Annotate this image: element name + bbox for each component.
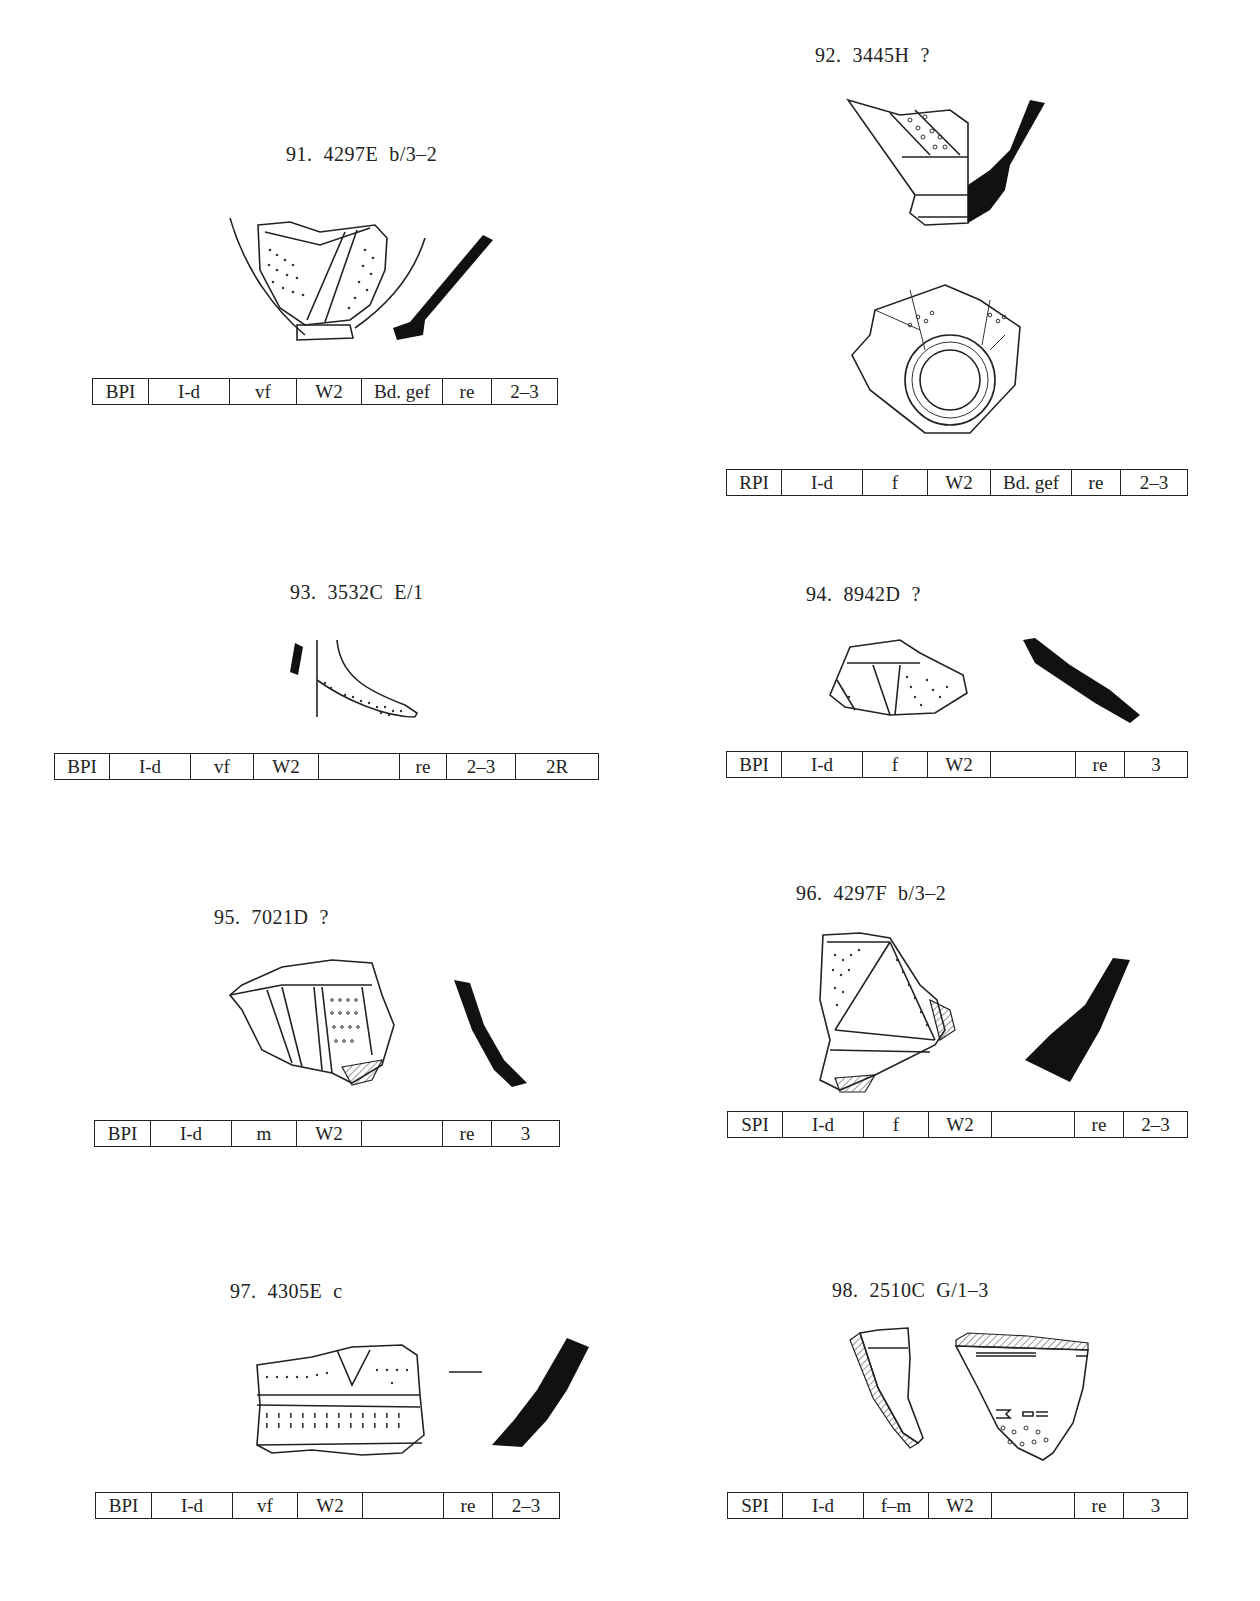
cell-part: Bd. gef — [991, 470, 1072, 496]
cell-fabric: f — [863, 470, 928, 496]
cell-fabric: vf — [233, 1493, 298, 1519]
cell-surface: re — [1072, 470, 1121, 496]
cell-fabric: f–m — [864, 1493, 929, 1519]
cell-type: I-d — [782, 470, 863, 496]
cell-wall: W2 — [929, 1112, 992, 1138]
cell-ware: SPI — [728, 1112, 783, 1138]
sherd-drawing-94 — [825, 635, 1145, 725]
cell-wall: W2 — [297, 1121, 362, 1147]
cell-wall: W2 — [929, 1493, 992, 1519]
cell-type: I-d — [149, 379, 230, 405]
cell-surface: re — [1075, 1112, 1124, 1138]
cell-range: 2–3 — [447, 754, 516, 780]
cell-fabric: vf — [191, 754, 254, 780]
caption-91: 91. 4297E b/3–2 — [286, 143, 437, 166]
cell-type: I-d — [783, 1112, 864, 1138]
sherd-drawing-97 — [252, 1335, 597, 1460]
classification-table-94: BPI I-d f W2 re 3 — [726, 751, 1188, 778]
cell-surface: re — [444, 1493, 493, 1519]
cell-range: 3 — [1125, 752, 1188, 778]
sherd-drawing-96 — [815, 930, 1135, 1095]
cell-ware: RPI — [727, 470, 782, 496]
classification-table-98: SPI I-d f–m W2 re 3 — [727, 1492, 1188, 1519]
caption-96: 96. 4297F b/3–2 — [796, 882, 946, 905]
cell-part — [992, 1112, 1075, 1138]
caption-94: 94. 8942D ? — [806, 583, 921, 606]
classification-table-92: RPI I-d f W2 Bd. gef re 2–3 — [726, 469, 1188, 496]
cell-ware: BPI — [96, 1493, 152, 1519]
cell-surface: re — [1076, 752, 1125, 778]
cell-fabric: m — [232, 1121, 297, 1147]
cell-surface: re — [400, 754, 447, 780]
caption-98: 98. 2510C G/1–3 — [832, 1279, 989, 1302]
cell-wall: W2 — [928, 470, 991, 496]
cell-type: I-d — [783, 1493, 864, 1519]
cell-wall: W2 — [254, 754, 319, 780]
cell-fabric: f — [864, 1112, 929, 1138]
cell-part — [319, 754, 400, 780]
sherd-drawing-93 — [285, 635, 425, 720]
classification-table-95: BPI I-d m W2 re 3 — [94, 1120, 560, 1147]
caption-97: 97. 4305E c — [230, 1280, 343, 1303]
cell-range: 2–3 — [1121, 470, 1188, 496]
cell-range: 3 — [492, 1121, 560, 1147]
cell-fabric: vf — [230, 379, 297, 405]
cell-type: I-d — [151, 1121, 232, 1147]
cell-wall: W2 — [297, 379, 362, 405]
cell-range: 2–3 — [1124, 1112, 1188, 1138]
sherd-drawing-98 — [848, 1328, 1093, 1468]
classification-table-91: BPI I-d vf W2 Bd. gef re 2–3 — [92, 378, 558, 405]
cell-surface: re — [443, 379, 492, 405]
sherd-drawing-95 — [222, 955, 532, 1090]
cell-type: I-d — [110, 754, 191, 780]
cell-ware: SPI — [728, 1493, 783, 1519]
cell-fabric: f — [863, 752, 928, 778]
cell-part: Bd. gef — [362, 379, 443, 405]
cell-part — [991, 752, 1076, 778]
classification-table-96: SPI I-d f W2 re 2–3 — [727, 1111, 1188, 1138]
cell-ware: BPI — [727, 752, 782, 778]
classification-table-93: BPI I-d vf W2 re 2–3 2R — [54, 753, 599, 780]
cell-surface: re — [1075, 1493, 1124, 1519]
cell-range: 2–3 — [492, 379, 558, 405]
cell-wall: W2 — [928, 752, 991, 778]
sherd-drawing-92 — [840, 95, 1060, 450]
cell-extra: 2R — [516, 754, 599, 780]
cell-part — [363, 1493, 444, 1519]
caption-92: 92. 3445H ? — [815, 44, 930, 67]
classification-table-97: BPI I-d vf W2 re 2–3 — [95, 1492, 560, 1519]
cell-range: 2–3 — [493, 1493, 560, 1519]
cell-range: 3 — [1124, 1493, 1188, 1519]
cell-type: I-d — [152, 1493, 233, 1519]
cell-part — [992, 1493, 1075, 1519]
cell-part — [362, 1121, 443, 1147]
cell-ware: BPI — [95, 1121, 151, 1147]
cell-ware: BPI — [55, 754, 110, 780]
cell-ware: BPI — [93, 379, 149, 405]
caption-93: 93. 3532C E/1 — [290, 581, 424, 604]
caption-95: 95. 7021D ? — [214, 906, 329, 929]
sherd-drawing-91 — [225, 210, 505, 345]
cell-wall: W2 — [298, 1493, 363, 1519]
cell-surface: re — [443, 1121, 492, 1147]
cell-type: I-d — [782, 752, 863, 778]
